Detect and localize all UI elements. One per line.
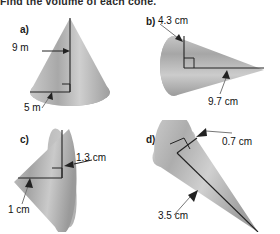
radius-label-d: 3.5 cm bbox=[158, 210, 188, 221]
height-label-c: 1.3 cm bbox=[76, 152, 106, 163]
height-label-b: 4.3 cm bbox=[158, 15, 188, 26]
worksheet-page: Find the volume of each cone. a) bbox=[0, 0, 280, 234]
height-label-d: 0.7 cm bbox=[222, 136, 252, 147]
cone-body-b bbox=[160, 36, 264, 96]
radius-label-c: 1 cm bbox=[8, 204, 30, 215]
radius-line-d bbox=[177, 153, 258, 232]
cone-body-c bbox=[14, 129, 77, 232]
question-prompt: Find the volume of each cone. bbox=[0, 0, 280, 7]
cone-figure-c bbox=[0, 120, 140, 232]
figure-panel-b: b) bbox=[140, 10, 280, 122]
cone-figure-a bbox=[0, 10, 140, 122]
figure-panel-c: c) bbox=[0, 120, 140, 232]
radius-arrowhead-d bbox=[188, 190, 198, 202]
radius-label-a: 5 m bbox=[24, 102, 41, 113]
height-label-a: 9 m bbox=[12, 42, 29, 53]
height-leader-b bbox=[160, 24, 178, 38]
radius-label-b: 9.7 cm bbox=[208, 96, 238, 107]
figure-panel-d: d) bbox=[140, 120, 280, 232]
height-leader-d bbox=[206, 131, 232, 133]
figure-panel-a: a) bbox=[0, 10, 140, 122]
height-arrowhead-d bbox=[196, 128, 207, 137]
